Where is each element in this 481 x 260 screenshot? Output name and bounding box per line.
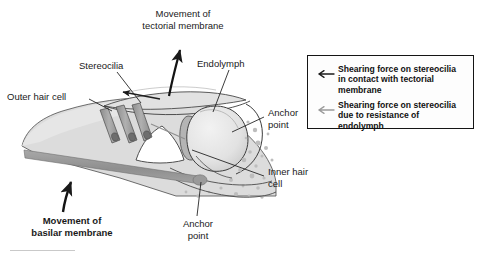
label-anchor-point-right: Anchor point [268,107,298,130]
label-outer-hair-cell: Outer hair cell [7,91,66,103]
label-inner-hair-cell: Inner hair cell [268,166,308,189]
legend-box: Shearing force on stereocilia in contact… [307,55,474,129]
label-stereocilia: Stereocilia [79,60,123,72]
legend-item-text: Shearing force on stereocilia in contact… [338,64,472,95]
legend-arrow-icon [316,69,335,79]
legend-arrow-icon [316,105,335,115]
label-movement-basilar: Movement of basilar membrane [17,215,127,238]
label-endolymph: Endolymph [197,58,245,70]
label-movement-tectorial: Movement of tectorial membrane [128,8,238,31]
tectorial-movement-arrow [169,50,180,96]
basilar-movement-arrow [63,182,71,212]
footer-rule [10,250,75,251]
label-anchor-point-bottom: Anchor point [170,218,226,241]
legend-item-text: Shearing force on stereocilia due to res… [338,100,472,131]
figure-canvas: Movement of tectorial membrane Stereocil… [0,0,481,260]
